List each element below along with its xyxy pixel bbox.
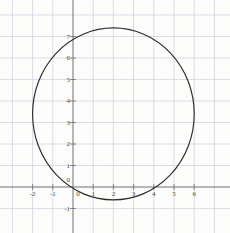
x-tick-label--2: -2 bbox=[30, 191, 36, 198]
x-tick-label-3: 3 bbox=[132, 191, 136, 198]
y-tick-label-0: 0 bbox=[67, 177, 71, 184]
x-tick-label-4: 4 bbox=[152, 191, 156, 198]
x-tick-label-6: 6 bbox=[192, 191, 196, 198]
circle-graph-figure: -2 -1 0 1 2 3 4 5 6 -1 0 1 2 3 4 5 6 7 bbox=[0, 0, 230, 233]
x-tick-label-2: 2 bbox=[112, 191, 116, 198]
plot-canvas bbox=[0, 0, 230, 233]
y-tick-label-7: 7 bbox=[67, 33, 71, 40]
x-tick-label-5: 5 bbox=[172, 191, 176, 198]
x-tick-label--1: -1 bbox=[50, 191, 56, 198]
x-tick-label-1: 1 bbox=[91, 191, 95, 198]
y-tick-label-2: 2 bbox=[67, 141, 71, 148]
y-tick-label-6: 6 bbox=[67, 55, 71, 62]
grid-lines-vertical bbox=[12, 0, 214, 233]
y-tick-label-4: 4 bbox=[67, 98, 71, 105]
grid-lines-horizontal bbox=[0, 15, 230, 209]
y-tick-label-5: 5 bbox=[67, 76, 71, 83]
y-tick-label-3: 3 bbox=[67, 119, 71, 126]
x-tick-label-0: 0 bbox=[76, 191, 80, 198]
y-tick-label-1: 1 bbox=[67, 162, 71, 169]
y-tick-label--1: -1 bbox=[64, 205, 70, 212]
